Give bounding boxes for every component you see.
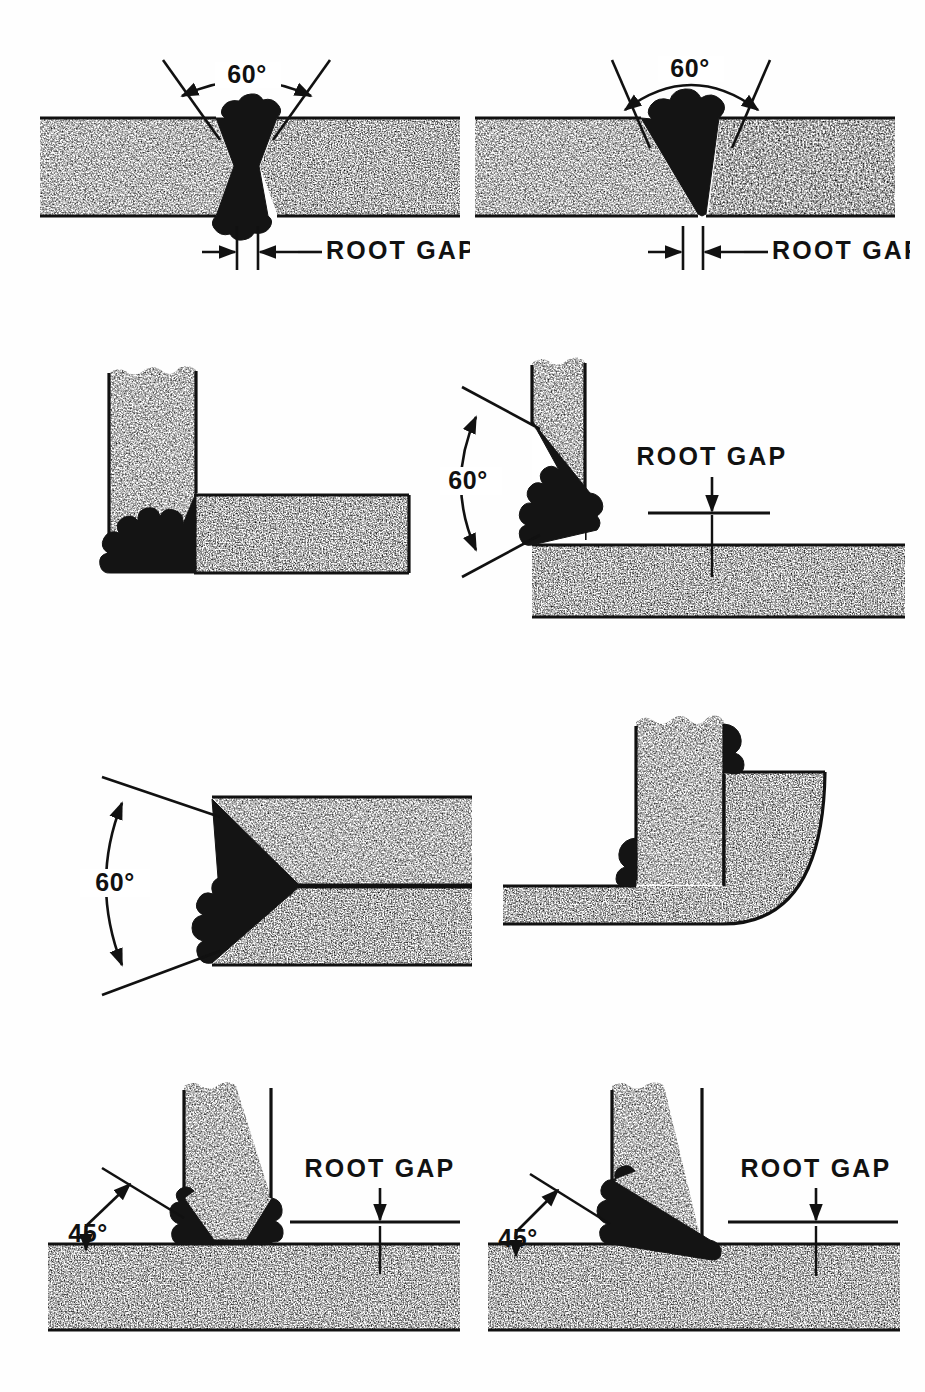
panel-single-v-edge-butt-joint: 60°: [60, 755, 480, 1025]
weld-bead-lower: [616, 838, 636, 886]
panel-lap-corner-fillet-joint: [495, 700, 915, 1020]
right-plate: [260, 118, 460, 216]
root-gap-label: ROOT GAP: [305, 1154, 456, 1182]
drawing-sheet: 60° ROOT GAP 60° ROOT GAP: [0, 0, 925, 1392]
angle-label: 45°: [498, 1224, 537, 1252]
angle-label: 60°: [227, 60, 266, 88]
weld-bead-upper: [724, 724, 744, 774]
panel-double-v-butt-joint: 60° ROOT GAP: [30, 30, 470, 305]
root-gap-label: ROOT GAP: [326, 236, 470, 264]
horizontal-plate: [532, 545, 905, 617]
right-plate: [706, 118, 895, 216]
angle-label: 60°: [670, 54, 709, 82]
horizontal-plate: [194, 495, 409, 573]
angle-callout: 60°: [440, 387, 540, 577]
panel-double-bevel-tee-joint: 45° ROOT GAP: [40, 1080, 470, 1370]
upright-plate: [636, 716, 724, 885]
root-gap-label: ROOT GAP: [772, 236, 910, 264]
root-gap-callout: ROOT GAP: [648, 226, 910, 270]
panel-square-corner-joint: [95, 345, 425, 645]
base-plate: [48, 1244, 460, 1330]
angle-callout: 60°: [80, 777, 220, 995]
root-gap-label: ROOT GAP: [741, 1154, 892, 1182]
angle-label: 60°: [448, 466, 487, 494]
panel-bevelled-corner-joint: 60° ROOT GAP: [440, 345, 920, 645]
angle-label: 45°: [68, 1219, 107, 1247]
angle-callout: 45°: [68, 1168, 184, 1250]
root-gap-label: ROOT GAP: [637, 442, 788, 470]
left-plate: [40, 118, 233, 216]
angle-label: 60°: [95, 868, 134, 896]
panel-single-v-butt-joint: 60° ROOT GAP: [470, 30, 910, 305]
panel-single-bevel-tee-joint: 45° ROOT GAP: [480, 1080, 910, 1370]
